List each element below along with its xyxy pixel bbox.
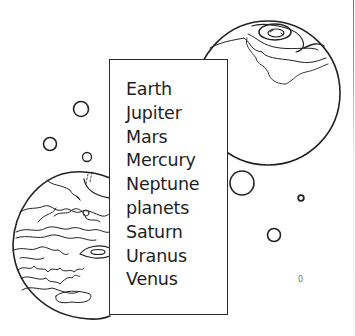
word-jupiter: Jupiter bbox=[126, 102, 199, 126]
word-list-box: Earth Jupiter Mars Mercury Neptune plane… bbox=[109, 59, 228, 315]
jupiter-planet-icon bbox=[13, 172, 110, 319]
coloring-page: Earth Jupiter Mars Mercury Neptune plane… bbox=[0, 0, 355, 336]
word-saturn: Saturn bbox=[126, 221, 199, 245]
stray-mark: 0 bbox=[298, 275, 303, 284]
word-earth: Earth bbox=[126, 78, 199, 102]
word-mercury: Mercury bbox=[126, 149, 199, 173]
word-venus: Venus bbox=[126, 268, 199, 292]
word-list: Earth Jupiter Mars Mercury Neptune plane… bbox=[126, 78, 199, 292]
word-neptune: Neptune bbox=[126, 173, 199, 197]
word-planets: planets bbox=[126, 197, 199, 221]
word-mars: Mars bbox=[126, 126, 199, 150]
word-uranus: Uranus bbox=[126, 245, 199, 269]
page-edge-divider bbox=[353, 0, 354, 336]
